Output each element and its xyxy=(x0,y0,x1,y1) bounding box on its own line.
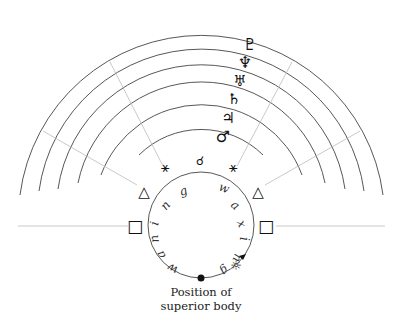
waning-letter: w xyxy=(164,260,181,278)
aspect-line-trine-right xyxy=(265,131,360,185)
planet-glyphs: ♇ ♆ ♅ ♄ ♃ ♂ xyxy=(216,35,257,146)
conjunction-icon: ☌ xyxy=(196,154,204,168)
waning-letter: i xyxy=(147,220,161,226)
neptune-symbol: ♆ xyxy=(238,53,252,72)
trine-left-icon: △ xyxy=(138,183,150,201)
sextile-left-icon: ⚹ xyxy=(161,159,170,175)
orbit-arcs xyxy=(20,35,383,195)
waning-label: g n i n a w xyxy=(147,183,190,278)
waxing-letter: w xyxy=(217,180,232,197)
trine-right-icon: △ xyxy=(252,183,264,201)
pluto-symbol: ♇ xyxy=(243,35,257,54)
sextile-right-icon: ⚹ xyxy=(229,159,238,175)
sun-icon: ☼ xyxy=(230,258,242,273)
saturn-symbol: ♄ xyxy=(227,90,240,108)
superior-body-dot xyxy=(198,275,205,282)
planetary-aspects-diagram: ♇ ♆ ♅ ♄ ♃ ♂ ☌ ⚹ ⚹ △ △ □ □ w a x i n g g … xyxy=(0,0,400,329)
orbit-arc-pluto xyxy=(20,35,383,195)
square-left-icon: □ xyxy=(127,216,143,236)
waning-letter: g xyxy=(177,183,189,199)
mars-symbol: ♂ xyxy=(216,127,230,146)
square-right-icon: □ xyxy=(258,216,274,236)
waxing-letter: i xyxy=(237,237,251,241)
caption-line-2: superior body xyxy=(161,299,242,313)
waxing-letter: a xyxy=(228,198,242,213)
aspect-lines xyxy=(18,62,385,226)
caption-line-1: Position of xyxy=(170,285,232,299)
waning-letter: n xyxy=(158,198,174,213)
waxing-letter: x xyxy=(234,218,250,229)
jupiter-symbol: ♃ xyxy=(221,109,234,127)
waning-letter: a xyxy=(153,248,169,261)
uranus-symbol: ♅ xyxy=(233,72,246,90)
